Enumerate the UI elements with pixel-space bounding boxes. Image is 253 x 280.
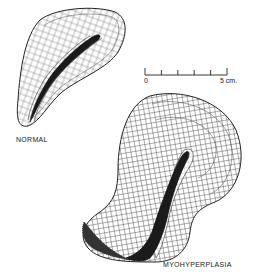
myohyperplasia-label: MYOHYPERPLASIA <box>163 261 232 268</box>
normal-label: NORMAL <box>16 136 48 143</box>
scale-end-label: 5 cm. <box>220 77 237 84</box>
scale-bar <box>145 68 227 75</box>
normal-uterus-illustration <box>17 8 125 126</box>
myohyperplasia-uterus-illustration <box>83 94 242 262</box>
scale-start-label: 0 <box>144 77 148 84</box>
